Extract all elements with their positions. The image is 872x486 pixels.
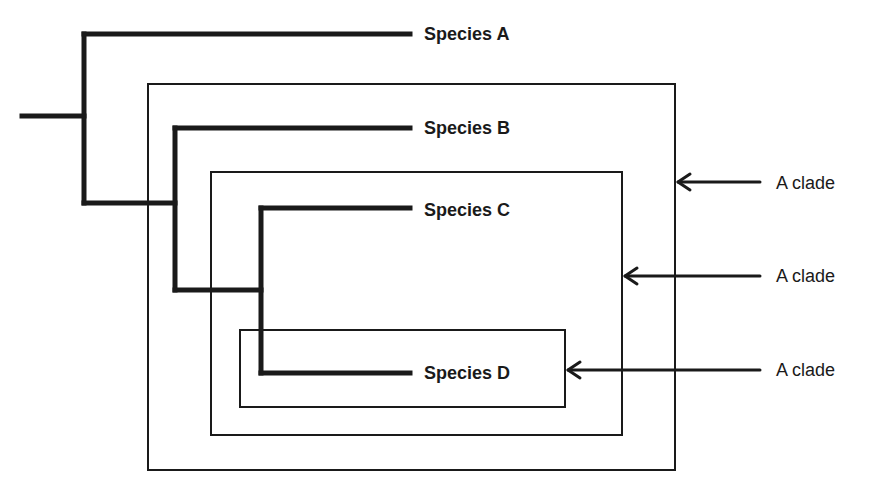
- species-label-c: Species C: [424, 201, 510, 219]
- cladogram-canvas: [0, 0, 872, 486]
- arrow-left-icon: [625, 268, 760, 284]
- clade-label-inner: A clade: [776, 361, 835, 379]
- clade-label-outer: A clade: [776, 174, 835, 192]
- clade-label-middle: A clade: [776, 267, 835, 285]
- species-label-d: Species D: [424, 364, 510, 382]
- species-label-b: Species B: [424, 119, 510, 137]
- species-label-a: Species A: [424, 25, 509, 43]
- clade-box-inner: [240, 330, 565, 407]
- arrow-left-icon: [568, 362, 760, 378]
- clade-arrows: [568, 174, 760, 378]
- arrow-left-icon: [678, 174, 760, 190]
- clade-boxes: [148, 84, 675, 470]
- clade-box-middle: [211, 172, 622, 435]
- clade-box-outer: [148, 84, 675, 470]
